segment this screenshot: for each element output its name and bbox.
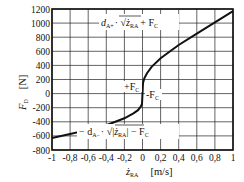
x-tick-label: -0,8 <box>63 153 78 163</box>
y-tick-label: 200 <box>36 75 51 85</box>
y-tick-label: -400 <box>33 117 51 127</box>
x-tick-label: 0,6 <box>191 153 203 163</box>
lower-formula: − dA−· √|żRA| − FC <box>79 126 149 138</box>
x-axis-label: żRA[m/s] <box>125 166 173 178</box>
x-tick-label: -0,6 <box>81 153 96 163</box>
y-tick-label: 600 <box>36 47 51 57</box>
x-tick-label: 0,4 <box>173 153 185 163</box>
x-tick-label: 0,2 <box>155 153 167 163</box>
y-tick-label: 1200 <box>31 5 50 15</box>
x-tick-label: 0,8 <box>209 153 221 163</box>
x-tick-label: 0 <box>140 153 145 163</box>
y-tick-label: 0 <box>45 89 50 99</box>
y-tick-label: 800 <box>36 33 51 43</box>
y-axis-label: FD[N] <box>17 75 29 111</box>
x-tick-label: 1 <box>231 153 236 163</box>
x-tick-label: -0,2 <box>117 153 132 163</box>
y-tick-label: -800 <box>33 146 51 156</box>
y-tick-label: 1000 <box>31 19 50 29</box>
y-tick-label: 400 <box>36 61 51 71</box>
y-tick-label: -600 <box>33 131 51 141</box>
y-tick-label: -200 <box>33 103 51 113</box>
x-tick-label: -0,4 <box>99 153 114 163</box>
chart: -1-0,8-0,6-0,4-0,200,20,40,60,8112001000… <box>0 0 244 182</box>
svg-text:FD[N]: FD[N] <box>17 75 29 111</box>
